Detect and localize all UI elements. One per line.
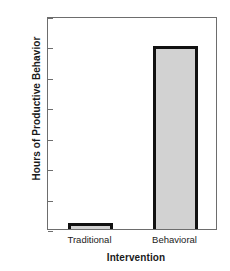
y-axis-tick-mark [48,201,53,202]
bar-chart-figure: Hours of Productive Behavior 01234567 In… [0,0,230,271]
y-axis-tick-mark [48,109,53,110]
bar-traditional [68,223,113,229]
y-axis-tick-mark [48,48,53,49]
x-axis-tick-label: Behavioral [152,234,197,245]
y-axis-tick-mark [48,140,53,141]
y-axis-tick-mark [48,170,53,171]
plot-area: 01234567 [47,17,217,230]
bar-behavioral [153,46,198,229]
x-axis-tick-label: Traditional [67,234,111,245]
y-axis-tick-mark [48,79,53,80]
y-axis-tick-mark [48,231,53,232]
y-axis-tick-mark [48,18,53,19]
x-axis-title: Intervention [0,252,230,263]
y-axis-title: Hours of Productive Behavior [31,9,42,209]
